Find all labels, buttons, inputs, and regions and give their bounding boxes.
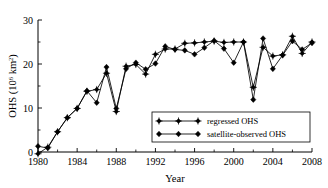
legend: regressed OHSsatellite-observed OHS xyxy=(152,112,310,142)
legend-label: regressed OHS xyxy=(207,116,258,126)
y-tick-label: 30 xyxy=(23,15,33,26)
y-tick-label: 20 xyxy=(23,59,33,70)
y-label-part: OHS (10 xyxy=(7,80,19,118)
x-tick-label: 2004 xyxy=(263,156,283,167)
marker-filled-diamond xyxy=(114,106,119,112)
ohs-line-chart: 198019841988199219962000200420080102030Y… xyxy=(0,0,328,188)
marker-filled-diamond xyxy=(156,131,161,137)
y-axis-label: OHS (106 km2) xyxy=(7,54,19,118)
x-tick-label: 2008 xyxy=(302,156,322,167)
marker-filled-diamond xyxy=(309,40,314,46)
y-axis-label-text: OHS (106 km2) xyxy=(7,54,19,118)
y-tick-label: 10 xyxy=(23,103,33,114)
marker-filled-diamond xyxy=(241,39,246,45)
y-label-part: km xyxy=(7,61,18,77)
chart-figure: 198019841988199219962000200420080102030Y… xyxy=(0,0,328,188)
x-axis-label: Year xyxy=(165,173,185,184)
marker-filled-diamond xyxy=(176,131,181,137)
x-tick-label: 1992 xyxy=(145,156,165,167)
marker-filled-diamond xyxy=(104,64,109,70)
x-tick-label: 2000 xyxy=(224,156,244,167)
marker-filled-diamond xyxy=(202,45,207,51)
legend-label: satellite-observed OHS xyxy=(207,129,286,139)
y-label-part: ) xyxy=(7,54,19,58)
x-tick-label: 1984 xyxy=(67,156,87,167)
x-tick-label: 1996 xyxy=(185,156,205,167)
x-tick-label: 1980 xyxy=(28,156,48,167)
marker-filled-diamond xyxy=(153,61,158,67)
marker-filled-diamond xyxy=(192,52,197,58)
marker-filled-diamond xyxy=(260,36,265,42)
marker-filled-diamond xyxy=(251,97,256,103)
x-tick-label: 1988 xyxy=(106,156,126,167)
marker-filled-diamond xyxy=(35,143,40,149)
marker-filled-diamond xyxy=(182,48,187,54)
y-tick-label: 0 xyxy=(28,147,33,158)
marker-filled-diamond xyxy=(195,131,200,137)
marker-filled-diamond xyxy=(45,145,50,151)
